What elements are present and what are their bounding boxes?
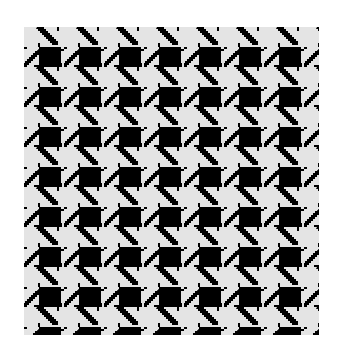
houndstooth-pattern-graphic (24, 27, 319, 335)
houndstooth-swatch: Houndstooth (24, 27, 319, 335)
pattern-fill (24, 27, 319, 335)
